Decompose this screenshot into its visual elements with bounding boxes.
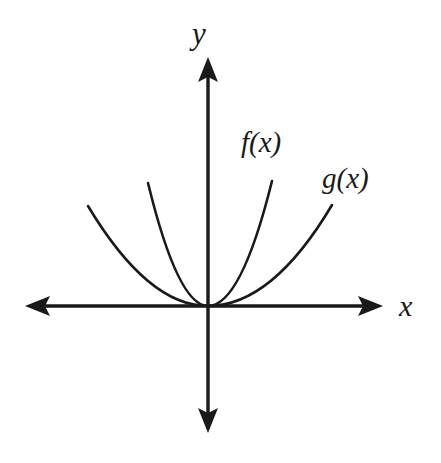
x-axis-label: x bbox=[399, 291, 412, 321]
curve-label-f-of-x: f(x) bbox=[241, 128, 281, 157]
curve-g-of-x bbox=[88, 205, 332, 306]
curve-f-of-x bbox=[148, 181, 272, 306]
coordinate-plane-figure bbox=[0, 0, 441, 463]
figure-canvas: y x f(x) g(x) bbox=[0, 0, 441, 463]
y-axis-label: y bbox=[192, 18, 206, 49]
curve-label-g-of-x: g(x) bbox=[322, 164, 369, 193]
